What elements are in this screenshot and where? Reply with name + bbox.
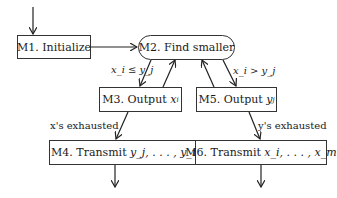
node-label: M2. Find smaller [139,41,234,54]
node-m5-output-y: M5. Output yj [196,87,277,112]
node-label: M1. Initialize [17,41,91,54]
node-label: M5. Output [198,93,262,106]
node-m3-output-x: M3. Output xi [99,87,182,112]
edge-label-le: x_i ≤ y_j [111,64,153,75]
node-m1-initialize: M1. Initialize [17,35,91,59]
edge-label-y-exhausted: y's exhausted [258,120,327,131]
edge-label-gt: x_i > y_j [233,65,275,76]
node-label: M3. Output [102,93,166,106]
node-label: M6. Transmit [185,146,261,159]
node-m6-transmit-x: M6. Transmit x_i, . . . , x_m [195,140,327,165]
node-sub: j [272,96,274,104]
node-math: x_i, . . . , x_m [264,146,336,159]
edge-label-x-exhausted: x's exhausted [50,120,119,131]
node-m4-transmit-y: M4. Transmit y_j, . . . , y_n [49,140,201,165]
node-m2-find-smaller: M2. Find smaller [138,35,235,60]
m3-to-m2-arrow [163,60,175,87]
node-label: M4. Transmit [51,146,127,159]
m5-to-m2-arrow [202,60,214,87]
node-sub: i [176,96,178,104]
